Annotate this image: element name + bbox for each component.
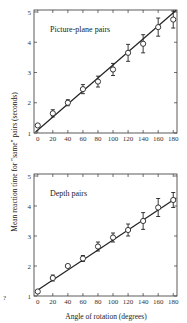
- x-tick-label: 100: [108, 135, 119, 143]
- y-tick-label: 4: [28, 203, 32, 211]
- panel-title: Depth pairs: [50, 189, 87, 198]
- x-tick-label: 40: [64, 135, 72, 143]
- x-tick-label: 0: [36, 298, 40, 306]
- data-point: [35, 289, 40, 294]
- depth-chart: 02040608010012014016018012345Depth pairs: [28, 173, 179, 307]
- x-tick-label: 0: [36, 135, 40, 143]
- data-point: [65, 100, 70, 105]
- data-point: [110, 67, 115, 72]
- x-tick-label: 20: [49, 298, 57, 306]
- picture-plane-chart: 02040608010012014016018012345Picture-pla…: [28, 9, 179, 144]
- x-tick-label: 140: [138, 135, 149, 143]
- y-tick-label: 1: [28, 130, 32, 138]
- x-tick-label: 160: [153, 298, 164, 306]
- data-point: [125, 227, 130, 232]
- data-point: [50, 275, 55, 280]
- x-tick-label: 60: [79, 298, 87, 306]
- x-tick-label: 20: [49, 135, 57, 143]
- x-tick-label: 140: [138, 298, 149, 306]
- data-point: [95, 244, 100, 249]
- y-tick-label: 4: [28, 39, 32, 47]
- x-tick-label: 120: [123, 135, 134, 143]
- x-tick-label: 120: [123, 298, 134, 306]
- fit-line: [36, 198, 177, 291]
- y-tick-label: 3: [28, 233, 32, 241]
- data-point: [141, 218, 146, 223]
- data-point: [141, 41, 146, 46]
- data-point: [156, 25, 161, 30]
- x-tick-label: 80: [94, 298, 102, 306]
- corner-mark: ?: [3, 294, 6, 302]
- x-axis-label: Angle of rotation (degrees): [65, 312, 147, 321]
- figure: 02040608010012014016018012345Picture-pla…: [0, 0, 187, 323]
- panel-title: Picture-plane pairs: [50, 25, 110, 34]
- y-tick-label: 5: [28, 173, 32, 181]
- data-point: [95, 79, 100, 84]
- data-point: [110, 235, 115, 240]
- x-tick-label: 60: [79, 135, 87, 143]
- data-point: [65, 263, 70, 268]
- data-point: [171, 197, 176, 202]
- x-tick-label: 160: [153, 135, 164, 143]
- data-point: [50, 111, 55, 116]
- x-tick-label: 40: [64, 298, 72, 306]
- data-point: [35, 123, 40, 128]
- data-point: [80, 87, 85, 92]
- data-point: [171, 17, 176, 22]
- x-tick-label: 180: [168, 298, 179, 306]
- x-tick-label: 80: [94, 135, 102, 143]
- x-tick-label: 180: [168, 135, 179, 143]
- x-tick-label: 100: [108, 298, 119, 306]
- y-tick-label: 1: [28, 293, 32, 301]
- y-tick-label: 5: [28, 9, 32, 17]
- data-point: [80, 256, 85, 261]
- y-tick-label: 2: [28, 263, 32, 271]
- y-tick-label: 3: [28, 69, 32, 77]
- data-point: [125, 50, 130, 55]
- data-point: [156, 205, 161, 210]
- y-axis-label: Mean reaction time for "same" pairs (sec…: [10, 92, 19, 232]
- y-tick-label: 2: [28, 99, 32, 107]
